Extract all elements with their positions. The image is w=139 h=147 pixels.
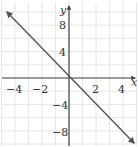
y-tick-label: −4 bbox=[52, 99, 68, 112]
x-tick-label: 2 bbox=[92, 83, 99, 96]
x-tick-label: −2 bbox=[32, 83, 48, 96]
x-axis-label: x bbox=[131, 76, 138, 89]
y-tick-label: −8 bbox=[52, 126, 68, 139]
y-axis-label: y bbox=[59, 4, 67, 17]
y-tick-label: 8 bbox=[59, 19, 66, 32]
x-tick-label: 4 bbox=[118, 83, 125, 96]
x-tick-label: −4 bbox=[6, 83, 22, 96]
y-tick-label: 4 bbox=[59, 46, 66, 59]
graph-plot: x y −4 −2 2 4 8 4 −4 −8 bbox=[0, 0, 139, 147]
